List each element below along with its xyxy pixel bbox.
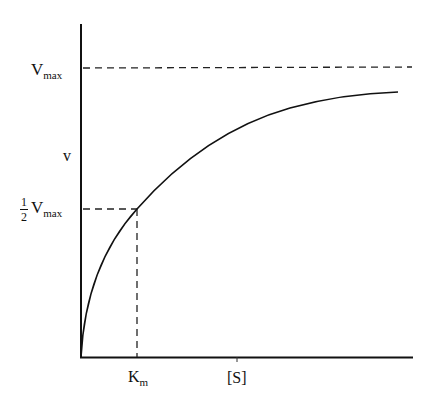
vmax-reference-line <box>83 67 412 68</box>
half-vmax-label: 1 2 Vmax <box>20 196 62 223</box>
km-label-main: K <box>128 368 140 385</box>
fraction-denominator: 2 <box>21 211 27 223</box>
km-label-sub: m <box>140 376 149 388</box>
y-axis-label: v <box>63 148 71 164</box>
half-vmax-main: V <box>31 198 43 217</box>
vmax-label-main: V <box>31 60 43 79</box>
half-fraction: 1 2 <box>20 196 28 223</box>
vmax-label-sub: max <box>43 69 62 81</box>
x-axis-label: [S] <box>227 370 247 386</box>
fraction-numerator: 1 <box>21 196 27 208</box>
vmax-label: Vmax <box>31 61 62 78</box>
half-vmax-sub: max <box>43 207 62 219</box>
michaelis-menten-curve <box>81 92 398 357</box>
km-label: Km <box>128 369 148 385</box>
chart-canvas <box>0 0 434 405</box>
